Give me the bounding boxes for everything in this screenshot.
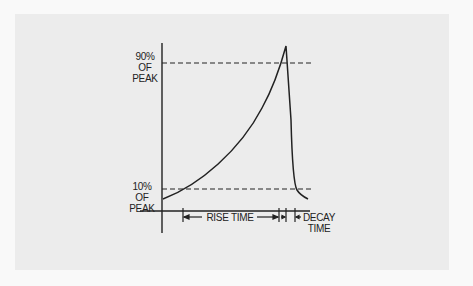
waveform-diagram	[0, 0, 473, 286]
pulse-curve	[163, 46, 308, 199]
ten-percent-caption: OF PEAK	[124, 192, 160, 214]
ninety-percent-caption: OF PEAK	[128, 62, 162, 84]
ten-percent-label: 10% OF PEAK	[124, 181, 160, 214]
rise-time-label: RISE TIME	[202, 212, 258, 223]
ninety-percent-value: 90%	[128, 51, 162, 62]
ten-percent-value: 10%	[124, 181, 160, 192]
time-word: TIME	[301, 223, 337, 234]
decay-time-label: DECAY TIME	[301, 212, 337, 234]
decay-word: DECAY	[301, 212, 337, 223]
ninety-percent-label: 90% OF PEAK	[128, 51, 162, 84]
